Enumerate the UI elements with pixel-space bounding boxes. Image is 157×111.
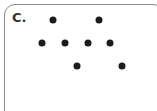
dot-pattern-panel [4,4,157,111]
panel-label: C. [12,11,26,24]
dot-icon [119,63,126,70]
dot-icon [107,40,114,47]
dot-icon [50,17,57,24]
dot-icon [96,17,103,24]
dot-icon [39,40,46,47]
dot-icon [62,40,69,47]
dot-icon [85,40,92,47]
dot-icon [74,63,81,70]
